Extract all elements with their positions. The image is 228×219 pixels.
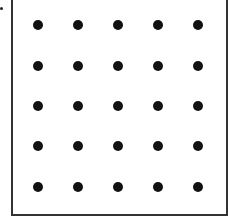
grid-dot xyxy=(73,101,83,111)
grid-dot xyxy=(153,61,163,71)
grid-dot xyxy=(73,182,83,192)
grid-dot xyxy=(33,61,43,71)
grid-dot xyxy=(193,20,203,30)
grid-dot xyxy=(193,101,203,111)
grid-dot xyxy=(113,141,123,151)
grid-dot xyxy=(113,101,123,111)
grid-dot xyxy=(73,141,83,151)
grid-dot xyxy=(193,141,203,151)
corner-mark xyxy=(0,7,3,10)
grid-dot xyxy=(113,20,123,30)
grid-dot xyxy=(153,182,163,192)
grid-dot xyxy=(113,182,123,192)
grid-dot xyxy=(33,182,43,192)
grid-dot xyxy=(73,61,83,71)
grid-dot xyxy=(33,20,43,30)
grid-dot xyxy=(33,141,43,151)
grid-dot xyxy=(73,20,83,30)
grid-dot xyxy=(33,101,43,111)
grid-dot xyxy=(113,61,123,71)
grid-dot xyxy=(153,101,163,111)
grid-dot xyxy=(193,61,203,71)
grid-dot xyxy=(153,20,163,30)
grid-dot xyxy=(153,141,163,151)
grid-dot xyxy=(193,182,203,192)
